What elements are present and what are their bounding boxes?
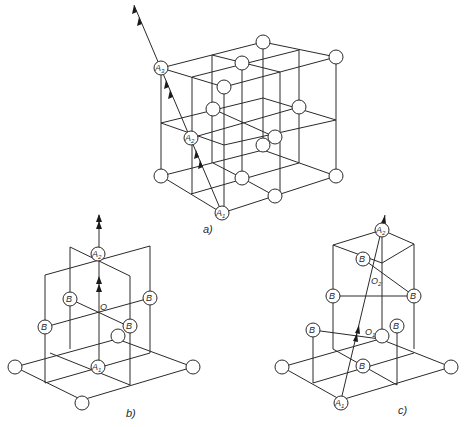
svg-text:B: B [126, 321, 132, 331]
caption-c: c) [398, 404, 408, 416]
svg-text:B: B [309, 325, 315, 335]
panel-b: B B B B O A2 A1 b) [8, 214, 200, 419]
panel-a: A3 A2 A1 a) [132, 5, 343, 235]
panel-a-lattice-lines [161, 42, 336, 213]
atom-A3: A3 [154, 61, 168, 75]
point-O: O [100, 302, 107, 312]
caption-b: b) [126, 407, 136, 419]
atom-A1-b: A1 [91, 360, 105, 374]
svg-text:B: B [146, 293, 152, 303]
caption-a: a) [203, 223, 213, 235]
atom-A2-b: A2 [91, 247, 105, 261]
atom-A1-c: A1 [334, 396, 348, 410]
svg-text:B: B [41, 322, 47, 332]
svg-text:B: B [410, 291, 416, 301]
svg-text:B: B [329, 291, 335, 301]
point-O2: O2 [371, 276, 382, 287]
atom-A2: A2 [184, 131, 198, 145]
point-O1: O1 [365, 327, 375, 338]
svg-text:B: B [359, 361, 365, 371]
atom-A2-c: A2 [375, 223, 389, 237]
lattice-figure: A3 A2 A1 a) [0, 0, 469, 427]
svg-text:B: B [66, 294, 72, 304]
atom-A1: A1 [215, 206, 229, 220]
svg-text:B: B [393, 321, 399, 331]
svg-text:B: B [359, 254, 365, 264]
panel-c: B B B B B B O2 O1 A2 A1 c) [275, 215, 458, 416]
